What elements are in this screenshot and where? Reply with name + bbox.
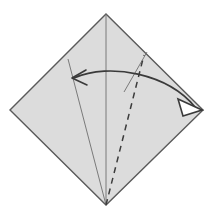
origami-figure-svg: Origami fold step diagram Square sheet r… (0, 0, 213, 213)
origami-diagram: Origami fold step diagram Square sheet r… (0, 0, 213, 213)
paper-sheet (10, 14, 203, 205)
